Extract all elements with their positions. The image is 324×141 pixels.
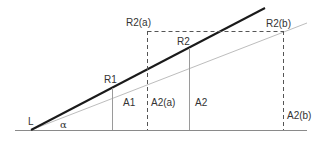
geometry-diagram: L α R1 A1 R2(a) A2(a) R2 A2 R2(b) A2(b): [0, 0, 324, 141]
label-r2a: R2(a): [126, 17, 151, 28]
label-a2a: A2(a): [151, 97, 175, 108]
label-a1: A1: [123, 97, 136, 108]
label-l: L: [28, 116, 34, 127]
label-r1: R1: [104, 74, 117, 85]
label-r2: R2: [177, 36, 190, 47]
label-a2: A2: [195, 97, 208, 108]
label-r2b: R2(b): [266, 18, 291, 29]
thin-sloped-line: [31, 23, 307, 130]
label-alpha: α: [60, 119, 67, 130]
label-a2b: A2(b): [287, 110, 311, 121]
